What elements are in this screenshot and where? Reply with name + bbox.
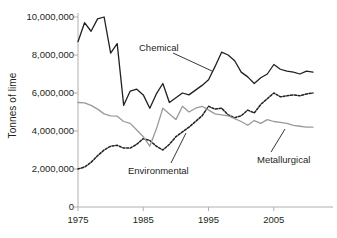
annotation-leader-lines [171, 53, 285, 163]
leader-line-metallurgical [271, 129, 285, 152]
series-label-metallurgical: Metallurgical [257, 155, 310, 165]
chart-figure: Tonnes of lime 10,000,0008,000,0006,000,… [0, 0, 337, 238]
leader-line-environmental [171, 133, 186, 163]
plot-area [0, 0, 337, 238]
series-label-environmental: Environmental [128, 166, 189, 176]
data-series-group [78, 17, 313, 169]
axis-lines [74, 13, 333, 211]
leader-line-chemical [173, 53, 212, 71]
series-line-metallurgical [78, 103, 313, 147]
series-label-chemical: Chemical [139, 43, 179, 53]
